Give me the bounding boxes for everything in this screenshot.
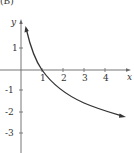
y-axis-arrow-icon: [19, 19, 22, 24]
x-axis-label: x: [127, 72, 132, 82]
y-ticks: 1 -1 -2 -3: [5, 43, 23, 138]
svg-text:-1: -1: [5, 85, 14, 95]
svg-text:4: 4: [103, 73, 109, 83]
svg-text:3: 3: [82, 73, 88, 83]
svg-text:-2: -2: [5, 107, 14, 117]
svg-text:1: 1: [12, 43, 18, 53]
curve-start-arrow-icon: [25, 26, 29, 33]
y-axis-label: y: [10, 17, 17, 27]
curve-end-arrow-icon: [119, 114, 126, 118]
chart: (B) y x 1 2 3 4 1 -1 -2 -3: [0, 0, 134, 153]
svg-text:-3: -3: [5, 128, 14, 138]
svg-text:2: 2: [61, 73, 67, 83]
panel-label: (B): [0, 0, 14, 6]
